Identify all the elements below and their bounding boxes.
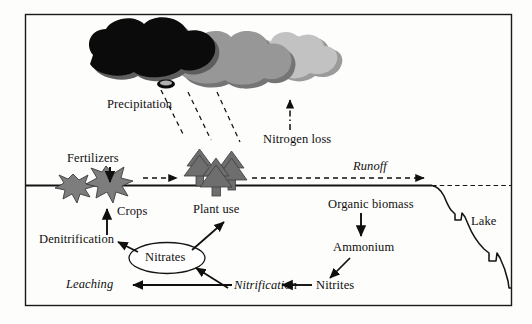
precipitation-rain-lines (161, 90, 240, 142)
label-precipitation: Precipitation (107, 98, 172, 111)
label-runoff: Runoff (353, 160, 387, 173)
ammonium-to-nitrites-arrow (330, 258, 350, 278)
tree-cluster (184, 149, 247, 196)
label-leaching: Leaching (66, 278, 113, 291)
label-nitrates: Nitrates (145, 251, 185, 264)
label-fertilizers: Fertilizers (67, 152, 119, 165)
label-organic-biomass: Organic biomass (328, 198, 414, 211)
label-crops: Crops (117, 205, 147, 218)
label-nitrogen-loss: Nitrogen loss (263, 133, 331, 146)
label-nitrites: Nitrites (316, 279, 354, 292)
diagram-canvas: Precipitation Nitrogen loss Fertilizers … (0, 0, 532, 324)
denitrification-arrow (118, 242, 138, 252)
crop-plants (55, 166, 133, 203)
label-ammonium: Ammonium (333, 241, 394, 254)
lake-bed-profile (432, 186, 511, 289)
label-plant-use: Plant use (193, 203, 239, 216)
label-denitrification: Denitrification (39, 233, 114, 246)
label-lake: Lake (471, 215, 496, 228)
label-nitrification: Nitrification (234, 279, 297, 292)
plant-use-arrow (192, 222, 224, 250)
